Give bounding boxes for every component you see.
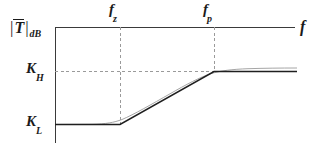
kl-subscript: L bbox=[36, 125, 42, 136]
y-axis-label-subscript: dB bbox=[30, 28, 42, 39]
y-axis-label-variable-text: T bbox=[14, 19, 24, 36]
y-axis-label-variable: T bbox=[13, 20, 25, 36]
x-tick-label-fp: fp bbox=[203, 2, 213, 20]
x-axis-label: f bbox=[300, 19, 305, 35]
y-tick-label-kh: KH bbox=[26, 61, 44, 79]
y-tick-label-kl: KL bbox=[26, 114, 42, 132]
actual-response-curve bbox=[55, 68, 297, 125]
fp-subscript: p bbox=[207, 13, 212, 24]
x-tick-label-fz: fz bbox=[109, 2, 118, 20]
asymptote-curve bbox=[55, 72, 297, 125]
fz-subscript: z bbox=[113, 13, 117, 24]
plot-canvas bbox=[0, 0, 321, 151]
y-axis-label: |T|dB bbox=[10, 19, 40, 36]
overbar-decoration bbox=[13, 19, 24, 20]
kl-base: K bbox=[26, 113, 36, 129]
kh-subscript: H bbox=[36, 72, 44, 83]
x-axis-label-text: f bbox=[300, 18, 305, 35]
y-axis-label-right-bar: | bbox=[25, 18, 28, 37]
kh-base: K bbox=[26, 60, 36, 76]
bode-plot-figure: |T|dB KH KL fz fp f bbox=[0, 0, 321, 151]
